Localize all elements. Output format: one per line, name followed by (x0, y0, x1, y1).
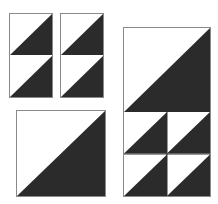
tall-unit-graphic (124, 28, 210, 196)
half-square-triangle-graphic (17, 111, 105, 196)
half-square-triangles-graphic (10, 14, 52, 97)
half-square-triangles-graphic (61, 14, 103, 97)
small-hst-unit-1 (9, 13, 53, 98)
small-hst-unit-2 (60, 13, 104, 98)
large-hst-square (16, 110, 106, 197)
tall-hst-unit (123, 27, 211, 197)
